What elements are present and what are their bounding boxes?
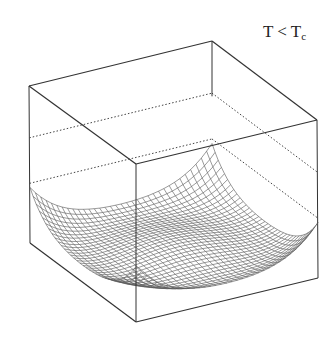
- box-back-edges: [29, 41, 318, 322]
- temperature-label: T < Tc: [263, 22, 306, 42]
- surface-plot: [0, 0, 336, 344]
- wireframe-surface: [30, 144, 318, 289]
